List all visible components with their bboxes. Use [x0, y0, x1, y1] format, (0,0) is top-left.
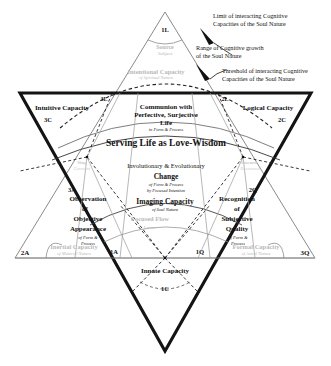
annotation-range: Range of Cognitive growth of the Soul Na… — [196, 44, 316, 60]
corner-arc-right — [268, 243, 284, 258]
corner-arc-left — [46, 243, 62, 258]
annotation-limit: Limit of interacting Cognitive Capacitie… — [213, 12, 331, 28]
apex-arc — [148, 40, 182, 44]
threshold-pointer — [196, 64, 210, 81]
limit-arc — [60, 84, 272, 128]
corner-arc-bottom — [140, 282, 190, 289]
limit-pointer — [200, 28, 214, 45]
hexagram-diagram: Limit of interacting Cognitive Capacitie… — [0, 0, 331, 366]
radial-dashed-lines — [87, 157, 243, 292]
growth-arc — [58, 122, 274, 148]
downward-triangle — [20, 93, 311, 351]
annotation-threshold: Threshold of interacting Cognitive Capac… — [222, 67, 331, 83]
